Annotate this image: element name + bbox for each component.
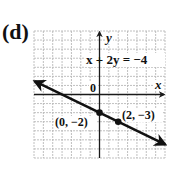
- figure-root: (d) x + 2y = −4 0 x y (0, −2)(2, −3): [0, 0, 184, 171]
- data-point: [96, 109, 103, 116]
- point-label: (0, −2): [55, 115, 88, 129]
- y-axis-label: y: [104, 30, 112, 45]
- data-point: [115, 118, 122, 125]
- equation-label: x + 2y = −4: [86, 52, 148, 67]
- origin-label: 0: [90, 81, 96, 95]
- coordinate-plane: x + 2y = −4 0 x y (0, −2)(2, −3): [0, 0, 184, 171]
- point-labels: (0, −2)(2, −3): [55, 108, 155, 129]
- x-axis-label: x: [154, 77, 162, 92]
- point-label: (2, −3): [122, 108, 155, 122]
